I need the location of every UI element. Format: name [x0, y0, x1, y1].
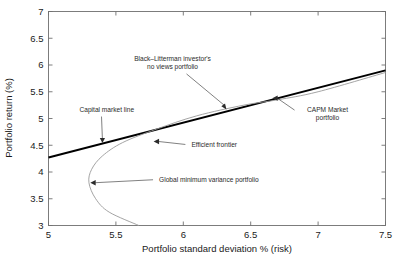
portfolio-efficient-frontier-chart: 55.566.577.5 33.544.555.566.57 Capital m… [0, 0, 404, 265]
x-tick-label: 6.5 [244, 229, 257, 240]
x-axis-title: Portfolio standard deviation % (risk) [142, 243, 292, 254]
x-tick-label: 5.5 [109, 229, 122, 240]
y-tick-label: 4.5 [30, 140, 43, 151]
y-tick-label: 5 [38, 113, 43, 124]
x-tick-label: 7 [315, 229, 320, 240]
annotation-label: no views portfolio [147, 63, 198, 71]
chart-figure: 55.566.577.5 33.544.555.566.57 Capital m… [0, 0, 404, 265]
y-tick-label: 3 [38, 220, 43, 231]
x-tick-label: 6 [181, 229, 186, 240]
y-tick-label: 5.5 [30, 86, 43, 97]
y-axis-title: Portfolio return (%) [3, 78, 14, 158]
annotation-label: Efficient frontier [191, 141, 237, 148]
annotation-label: portfolio [316, 114, 340, 122]
annotation-label: Global minimum variance portfolio [159, 176, 259, 184]
x-tick-label: 7.5 [379, 229, 392, 240]
y-tick-label: 7 [38, 6, 43, 17]
y-tick-label: 4 [38, 166, 43, 177]
annotation-label: Capital market line [80, 106, 135, 114]
y-tick-label: 6 [38, 59, 43, 70]
y-tick-label: 6.5 [30, 33, 43, 44]
annotation-label: Black–Litterman investor's [134, 55, 211, 62]
annotation-label: CAPM Market [307, 106, 348, 113]
x-tick-label: 5 [46, 229, 51, 240]
y-tick-label: 3.5 [30, 193, 43, 204]
